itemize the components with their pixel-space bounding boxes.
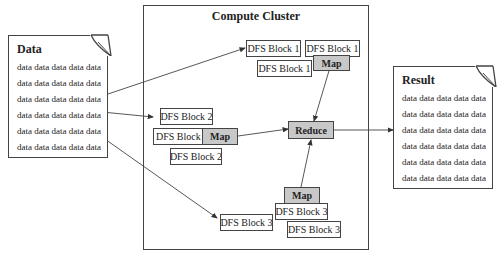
input-doc-line: data data data data data [17,75,107,91]
map-task-3: Map [284,187,320,204]
dfs-block-1: DFS Block 1 [257,60,312,77]
page-curl-icon [90,34,112,56]
dfs-block-3: DFS Block 3 [287,221,341,238]
input-doc-line: data data data data data [17,59,107,75]
page-curl-icon [475,65,497,87]
result-doc-line: data data data data data [402,106,492,122]
map-task-2: Map [202,128,238,145]
dfs-block-3: DFS Block 3 [275,203,328,220]
input-doc-line: data data data data data [17,139,107,155]
input-doc-line: data data data data data [17,107,107,123]
result-doc-line: data data data data data [402,122,492,138]
dfs-block-2: DFS Block 2 [170,148,222,165]
input-doc-line: data data data data data [17,91,107,107]
input-doc-line: data data data data data [17,123,107,139]
result-doc-line: data data data data data [402,138,492,154]
dfs-block-3: DFS Block 3 [220,214,273,231]
dfs-block-2: DFS Block 2 [153,128,205,145]
result-doc-line: data data data data data [402,170,492,186]
map-task-1: Map [313,55,350,71]
reduce-task: Reduce [288,121,334,139]
result-doc-line: data data data data data [402,90,492,106]
result-doc-line: data data data data data [402,154,492,170]
dfs-block-1: DFS Block 1 [246,40,301,57]
dfs-block-2: DFS Block 2 [160,108,213,125]
